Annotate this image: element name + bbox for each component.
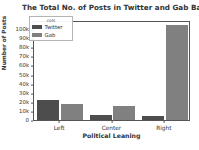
bar-left-gab — [61, 104, 83, 120]
x-tick-label-right: Right — [156, 125, 171, 131]
y-axis-label: Number of Posts — [1, 11, 7, 75]
y-tick-label: 0 — [26, 118, 29, 123]
y-tick-label: 90k — [19, 36, 29, 41]
bar-right-twitter — [142, 116, 164, 120]
x-tick-mark — [111, 121, 112, 123]
legend-item-twitter[interactable]: Twitter — [32, 23, 70, 31]
legend: cols Twitter Gab — [29, 16, 73, 41]
y-tick-label: 40k — [19, 82, 29, 87]
chart-title: The Total No. of Posts in Twitter and Ga… — [22, 2, 199, 13]
bar-chart-figure: The Total No. of Posts in Twitter and Ga… — [0, 0, 199, 150]
y-tick-label: 60k — [19, 64, 29, 69]
legend-item-gab[interactable]: Gab — [32, 31, 70, 39]
y-tick-label: 100k — [16, 27, 29, 32]
y-tick-label: 70k — [19, 55, 29, 60]
bar-left-twitter — [37, 100, 59, 120]
legend-label-twitter: Twitter — [45, 24, 63, 30]
x-tick-label-center: Center — [102, 125, 122, 131]
bar-right-gab — [166, 25, 188, 120]
bar-center-twitter — [90, 115, 112, 120]
legend-swatch-gab-icon — [32, 33, 42, 37]
y-tick-label: 50k — [19, 73, 29, 78]
x-tick-mark — [163, 121, 164, 123]
x-tick-label-left: Left — [54, 125, 65, 131]
legend-swatch-twitter-icon — [32, 25, 42, 29]
y-tick-label: 20k — [19, 100, 29, 105]
legend-label-gab: Gab — [45, 32, 56, 38]
y-tick-label: 30k — [19, 91, 29, 96]
x-tick-mark — [59, 121, 60, 123]
bar-center-gab — [113, 106, 135, 120]
y-tick-label: 10k — [19, 109, 29, 114]
y-tick-label: 80k — [19, 46, 29, 51]
x-axis-label: Political Leaning — [33, 132, 190, 139]
